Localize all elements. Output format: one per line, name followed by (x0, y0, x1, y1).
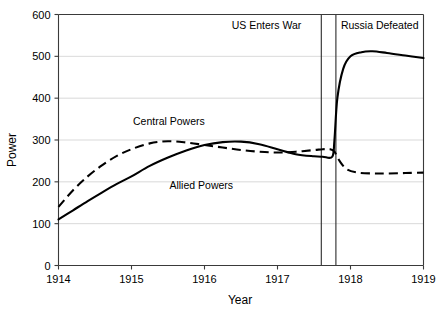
series-label-allied-powers: Allied Powers (169, 179, 233, 191)
x-axis-tick-labels: 191419151916191719181919 (46, 273, 435, 285)
series-inline-labels: Central PowersAllied Powers (133, 115, 233, 192)
series-paths-group (59, 51, 424, 219)
y-tick-label: 300 (32, 134, 50, 146)
x-axis-title: Year (228, 293, 252, 307)
annotation-label-us-enters-war: US Enters War (232, 19, 302, 31)
power-line-chart: 0100200300400500600 19141915191619171918… (0, 0, 444, 314)
gridlines-group (59, 56, 424, 223)
x-tick-label: 1916 (192, 273, 216, 285)
y-tick-label: 600 (32, 9, 50, 21)
y-axis-tick-labels: 0100200300400500600 (32, 9, 50, 272)
series-line-central-powers (59, 141, 424, 207)
x-tick-label: 1914 (46, 273, 70, 285)
x-tick-label: 1917 (265, 273, 289, 285)
series-label-central-powers: Central Powers (133, 115, 205, 127)
y-tick-label: 100 (32, 218, 50, 230)
chart-container: 0100200300400500600 19141915191619171918… (0, 0, 444, 314)
x-tick-label: 1919 (411, 273, 435, 285)
y-tick-label: 400 (32, 92, 50, 104)
x-tick-label: 1918 (338, 273, 362, 285)
x-tick-label: 1915 (119, 273, 143, 285)
y-tick-label: 500 (32, 50, 50, 62)
y-axis-title: Power (5, 133, 19, 167)
y-tick-label: 200 (32, 176, 50, 188)
y-tick-label: 0 (44, 260, 50, 272)
series-line-allied-powers (59, 51, 424, 219)
annotation-labels: US Enters WarRussia Defeated (232, 19, 419, 31)
annotation-label-russia-defeated: Russia Defeated (341, 19, 419, 31)
